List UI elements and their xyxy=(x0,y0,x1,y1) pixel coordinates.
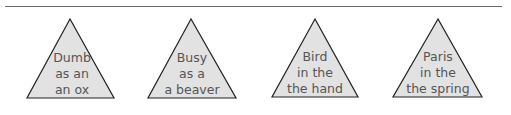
triangle-1: Dumb as an an ox xyxy=(27,19,114,98)
triangle-1-line-3: an ox xyxy=(55,82,89,97)
triangle-2-line-2: as a xyxy=(179,66,205,81)
triangle-2: Busy as a a beaver xyxy=(148,19,236,98)
triangle-4-line-1: Paris xyxy=(423,49,453,64)
triangle-2-line-1: Busy xyxy=(177,50,208,65)
triangle-3-line-2: in the xyxy=(297,65,333,80)
triangle-3-line-1: Bird xyxy=(303,49,328,64)
triangle-4-line-3: the spring xyxy=(406,81,469,96)
triangle-1-line-2: as an xyxy=(55,66,89,81)
triangle-3: Bird in the the hand xyxy=(272,19,358,97)
triangle-1-line-1: Dumb xyxy=(53,50,91,65)
triangles-diagram: Dumb as an an ox Busy as a a beaver Bird… xyxy=(0,0,511,115)
triangle-2-line-3: a beaver xyxy=(164,82,220,97)
triangle-4: Paris in the the spring xyxy=(393,19,482,97)
triangle-3-line-3: the hand xyxy=(287,81,343,96)
triangle-4-line-2: in the xyxy=(420,65,456,80)
